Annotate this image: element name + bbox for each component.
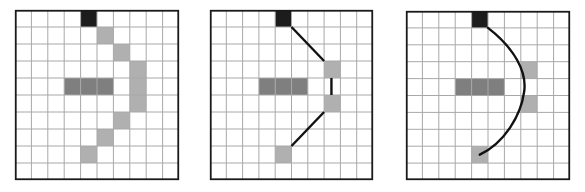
obstacle-cell [259, 78, 275, 95]
obstacle-cell [488, 79, 504, 96]
start-cell [81, 10, 97, 27]
obstacle-cell [81, 78, 97, 95]
obstacle-cell [64, 78, 80, 95]
grid-svg [15, 10, 179, 180]
path-cell [97, 27, 113, 44]
path-cell [97, 129, 113, 146]
path-cell [275, 146, 291, 163]
path-cell [324, 61, 340, 78]
grid-svg [406, 11, 570, 180]
path-cell [81, 146, 97, 163]
start-cell [472, 11, 488, 28]
obstacle-cell [275, 78, 291, 95]
start-cell [275, 10, 291, 27]
path-cell [130, 78, 146, 95]
obstacle-cell [455, 79, 471, 96]
grid-panel-grid-path-cells [15, 10, 179, 180]
grid-panel-smoothed-curve [406, 11, 570, 180]
obstacle-cell [292, 78, 308, 95]
path-cell [130, 95, 146, 112]
obstacle-cell [472, 79, 488, 96]
grid-panel-waypoint-segments [210, 10, 373, 180]
path-cell [130, 61, 146, 78]
path-cell [324, 95, 340, 112]
path-cell [113, 44, 129, 61]
path-cell [113, 112, 129, 129]
obstacle-cell [97, 78, 113, 95]
grid-svg [210, 10, 373, 180]
